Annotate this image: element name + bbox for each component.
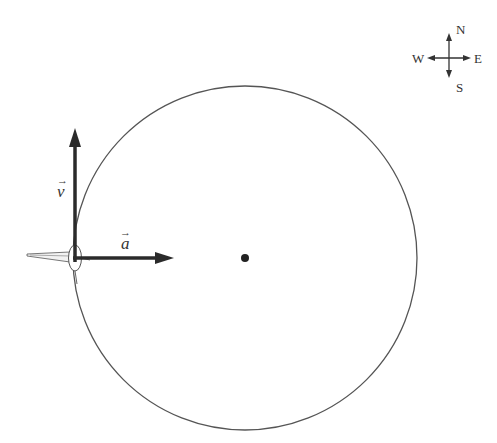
center-point [241, 254, 249, 262]
west-arrow-icon [427, 55, 435, 61]
south-arrow-icon [446, 70, 452, 78]
east-arrow-icon [463, 55, 471, 61]
acceleration-vector [73, 252, 174, 264]
compass-north-label: N [456, 22, 466, 37]
acceleration-arrow-symbol: → [120, 226, 131, 238]
north-arrow-icon [446, 33, 452, 41]
airplane-icon [27, 245, 90, 284]
velocity-arrow-symbol: → [57, 174, 68, 186]
compass-rose [427, 33, 471, 78]
compass-east-label: E [474, 51, 482, 66]
circular-motion-diagram: v → a → N S E W [0, 0, 497, 443]
compass-west-label: W [412, 51, 425, 66]
velocity-vector [69, 128, 81, 262]
compass-south-label: S [456, 80, 463, 95]
